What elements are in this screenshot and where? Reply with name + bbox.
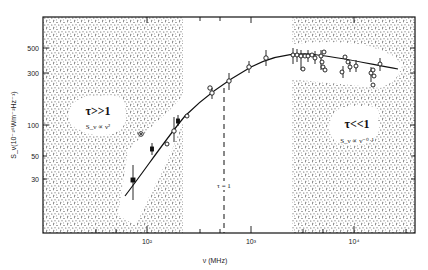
thick-region-title: τ>>1: [85, 104, 110, 118]
spectrum-figure: 500 300 100 50 30 10² 10³ 10⁴ ν (MHz) S_…: [0, 0, 428, 270]
x-tick-100: 10²: [142, 238, 153, 245]
x-tick-1000: 10³: [246, 238, 257, 245]
tau-one-label: τ = 1: [217, 182, 231, 190]
x-tick-10000: 10⁴: [349, 238, 360, 245]
y-tick-300: 300: [27, 70, 39, 77]
y-tick-30: 30: [31, 176, 39, 183]
y-tick-50: 50: [31, 153, 39, 160]
thin-region-title: τ<<1: [344, 117, 369, 131]
thick-region-law: S_ν ∝ ν²: [86, 123, 110, 131]
y-axis-label: S_ν(10⁻²⁶Wm⁻²Hz⁻¹): [10, 91, 18, 158]
x-axis-label: ν (MHz): [203, 257, 228, 265]
y-tick-100: 100: [27, 122, 39, 129]
thin-region-law: S_ν ∝ ν⁻⁰·¹: [340, 137, 374, 145]
y-tick-500: 500: [27, 45, 39, 52]
